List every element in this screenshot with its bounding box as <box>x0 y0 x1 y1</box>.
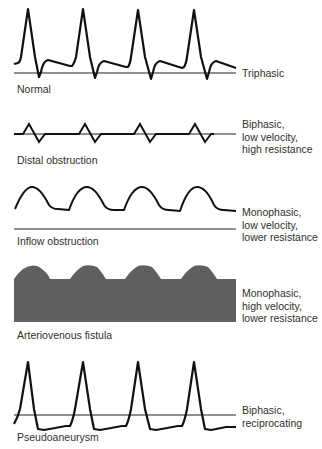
inflow-obstruction-description: Monophasic, low velocity, lower resistan… <box>242 206 318 244</box>
description-line: lower resistance <box>242 231 318 244</box>
distal-obstruction-description: Biphasic, low velocity, high resistance <box>242 118 313 156</box>
distal-obstruction-waveform <box>14 124 236 142</box>
description-line: low velocity, <box>242 131 313 144</box>
description-line: Monophasic, <box>242 206 318 219</box>
triphasic-trace <box>14 9 236 79</box>
monophasic-trace <box>15 187 236 211</box>
inflow-obstruction-caption: Inflow obstruction <box>17 235 99 248</box>
av-fistula-caption: Arteriovenous fistula <box>17 329 112 342</box>
av-fistula-description: Monophasic, high velocity, lower resista… <box>242 287 318 325</box>
pseudoaneurysm-caption: Pseudoaneurysm <box>17 431 99 444</box>
inflow-obstruction-waveform <box>14 187 236 229</box>
av-fistula-fill <box>14 265 236 322</box>
pseudoaneurysm-waveform <box>14 362 236 430</box>
description-line: Biphasic, <box>242 118 313 131</box>
pseudoaneurysm-description: Biphasic, reciprocating <box>242 404 302 429</box>
description-line: low velocity, <box>242 219 318 232</box>
description-line: reciprocating <box>242 417 302 430</box>
distal-obstruction-caption: Distal obstruction <box>17 154 98 167</box>
description-line: lower resistance <box>242 312 318 325</box>
description-line: high velocity, <box>242 300 318 313</box>
description-line: high resistance <box>242 143 313 156</box>
reciprocating-trace <box>14 362 236 430</box>
triphasic-waveform <box>14 9 236 79</box>
normal-caption: Normal <box>17 83 51 96</box>
biphasic-trace <box>14 124 214 142</box>
description-line: Monophasic, <box>242 287 318 300</box>
av-fistula-waveform <box>14 265 236 322</box>
description-line: Biphasic, <box>242 404 302 417</box>
normal-description: Triphasic <box>242 67 284 80</box>
description-line: Triphasic <box>242 67 284 80</box>
